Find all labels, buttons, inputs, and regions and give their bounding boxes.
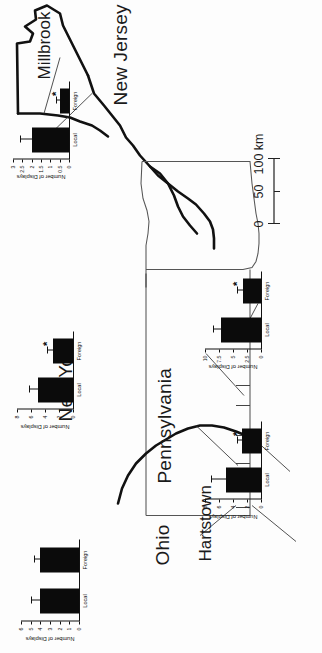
- y-tick: [261, 499, 262, 502]
- y-tick-label: 8: [14, 415, 20, 418]
- y-tick: [205, 349, 206, 352]
- y-tick: [233, 349, 234, 352]
- y-tick: [50, 621, 51, 624]
- significance-asterisk: *: [52, 91, 60, 95]
- y-tick: [17, 409, 18, 412]
- y-axis-title: Number of Displays: [17, 173, 66, 179]
- y-tick-label: 7.5: [216, 355, 222, 362]
- y-tick: [219, 349, 220, 352]
- error-bar-cap: [213, 326, 214, 333]
- y-tick: [219, 499, 220, 502]
- error-bar-cap: [211, 476, 212, 483]
- chart-panel-new-york: 02468Number of DisplaysLocalForeign*: [12, 327, 86, 435]
- bar: [242, 428, 261, 452]
- y-tick-label: 6: [216, 505, 222, 508]
- y-tick: [31, 409, 32, 412]
- y-tick-label: 0: [66, 165, 72, 168]
- figure-canvas: New York Pennsylvania New Jersey Ohio Mi…: [0, 0, 322, 653]
- y-tick: [73, 409, 74, 412]
- scale-tick-100km: 100 km: [252, 133, 266, 174]
- scale-bar: [268, 158, 280, 223]
- scale-tick-50: 50: [252, 184, 266, 198]
- error-bar-stem: [34, 559, 41, 560]
- category-label: Foreign: [72, 91, 78, 110]
- x-axis-line: [261, 421, 262, 499]
- y-tick-label: 4: [230, 505, 236, 508]
- y-tick-label: 2: [244, 505, 250, 508]
- y-axis-title: Number of Displays: [209, 363, 258, 369]
- y-tick: [32, 159, 33, 162]
- y-tick-label: 1.5: [38, 165, 44, 172]
- category-label: Local: [82, 594, 88, 607]
- error-bar-cap: [29, 386, 30, 393]
- y-tick-label: 4: [42, 415, 48, 418]
- scale-tick-0: 0: [252, 220, 266, 227]
- y-tick-label: 2: [57, 627, 63, 630]
- error-bar-cap: [237, 287, 238, 294]
- x-axis-line: [73, 331, 74, 409]
- y-tick: [40, 621, 41, 624]
- y-tick: [50, 159, 51, 162]
- y-tick-label: 3: [47, 627, 53, 630]
- y-tick: [31, 621, 32, 624]
- bar: [38, 377, 73, 401]
- y-tick: [233, 499, 234, 502]
- ny-pa-state-border: [141, 161, 149, 515]
- error-bar-stem: [31, 600, 41, 601]
- error-bar-stem: [213, 329, 221, 330]
- x-axis-line: [261, 271, 262, 349]
- y-tick: [21, 621, 22, 624]
- error-bar-cap: [31, 597, 32, 604]
- category-label: Foreign: [264, 431, 270, 450]
- bar: [40, 547, 79, 572]
- site-label-millbrook: Millbrook: [35, 11, 55, 79]
- y-tick-label: 5: [230, 355, 236, 358]
- y-tick-label: 3: [10, 165, 16, 168]
- category-label: Foreign: [76, 341, 82, 360]
- rotated-figure: New York Pennsylvania New Jersey Ohio Mi…: [0, 0, 322, 653]
- y-tick-label: 6: [28, 415, 34, 418]
- y-tick-label: 2: [56, 415, 62, 418]
- y-tick: [69, 159, 70, 162]
- y-tick-label: 0: [70, 415, 76, 418]
- y-tick: [45, 409, 46, 412]
- bar: [40, 588, 79, 613]
- error-bar-cap: [34, 556, 35, 563]
- y-tick-label: 0: [76, 627, 82, 630]
- chart-panel-pennsylvania: 02.557.510Number of DisplaysLocalForeign…: [200, 267, 274, 375]
- y-axis-title: Number of Displays: [26, 635, 75, 641]
- y-tick: [60, 159, 61, 162]
- y-tick-label: 5: [28, 627, 34, 630]
- error-bar-stem: [29, 389, 38, 390]
- y-tick-label: 0: [258, 505, 264, 508]
- y-tick: [60, 621, 61, 624]
- y-tick: [247, 499, 248, 502]
- x-axis-line: [69, 81, 70, 159]
- category-label: Local: [264, 323, 270, 336]
- category-label: Foreign: [82, 550, 88, 569]
- y-tick: [79, 621, 80, 624]
- state-label-ohio: Ohio: [152, 524, 174, 565]
- y-tick: [59, 409, 60, 412]
- bar: [221, 317, 261, 341]
- y-tick-label: 2: [29, 165, 35, 168]
- y-tick-label: 1: [66, 627, 72, 630]
- error-bar-cap: [237, 437, 238, 444]
- y-tick-label: 0.5: [57, 165, 63, 172]
- category-label: Local: [264, 473, 270, 486]
- y-axis-title: Number of Displays: [209, 513, 258, 519]
- significance-asterisk: *: [233, 431, 241, 435]
- chart-panel-hartstown: 02468Number of DisplaysLocalForeign*: [200, 417, 274, 525]
- y-tick: [247, 349, 248, 352]
- significance-asterisk: *: [43, 341, 51, 345]
- y-axis-title: Number of Displays: [21, 423, 70, 429]
- error-bar-cap: [56, 97, 57, 104]
- category-label: Foreign: [264, 281, 270, 300]
- error-bar-cap: [20, 136, 21, 143]
- chart-panel-ohio: 0123456Number of DisplaysLocalForeign: [16, 535, 92, 647]
- y-tick-label: 4: [37, 627, 43, 630]
- bar: [32, 127, 69, 151]
- bar: [243, 278, 261, 302]
- y-tick: [205, 499, 206, 502]
- y-tick: [261, 349, 262, 352]
